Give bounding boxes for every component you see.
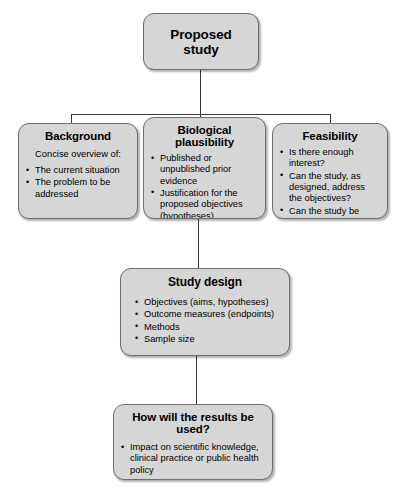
connector-branch-bus bbox=[71, 114, 331, 115]
node-feasibility-title: Feasibility bbox=[280, 130, 380, 142]
flow-chart-diagram: Proposed study Background Concise overvi… bbox=[0, 0, 395, 494]
node-results-used-list: Impact on scientific knowledge, clinical… bbox=[121, 442, 267, 480]
node-proposed-study-title: Proposed study bbox=[151, 27, 251, 57]
node-feasibility: Feasibility Is there enough interest? Ca… bbox=[272, 123, 388, 219]
node-background-list: The current situation The problem to be … bbox=[26, 165, 134, 200]
list-item: Can the study be completed on time? bbox=[280, 206, 380, 219]
node-background-lead: Concise overview of: bbox=[26, 149, 130, 159]
list-item: Objectives (aims, hypotheses) bbox=[135, 297, 275, 308]
list-item: What is expected to happen next? bbox=[121, 479, 267, 480]
list-item: Impact on scientific knowledge, clinical… bbox=[121, 442, 267, 476]
node-study-design-title: Study design bbox=[128, 275, 282, 289]
list-item: Can the study, as designed, address the … bbox=[280, 171, 380, 205]
list-item: The current situation bbox=[26, 165, 134, 176]
list-item: Published or unpublished prior evidence bbox=[151, 153, 258, 187]
node-biological-plausibility-list: Published or unpublished prior evidence … bbox=[151, 153, 258, 219]
node-proposed-study: Proposed study bbox=[143, 13, 259, 70]
node-results-used: How will the results be used? Impact on … bbox=[113, 404, 273, 480]
node-feasibility-list: Is there enough interest? Can the study,… bbox=[280, 147, 380, 219]
node-background-title: Background bbox=[26, 130, 130, 142]
list-item: Justification for the proposed objective… bbox=[151, 188, 258, 219]
list-item: The problem to be addressed bbox=[26, 177, 134, 200]
list-item: Methods bbox=[135, 322, 275, 333]
node-results-used-title: How will the results be used? bbox=[121, 411, 265, 435]
connector-study-design-to-results bbox=[196, 356, 197, 405]
connector-proposed-to-bus bbox=[200, 70, 201, 114]
connector-biological-to-study-design bbox=[198, 219, 199, 269]
node-background: Background Concise overview of: The curr… bbox=[18, 123, 138, 219]
node-biological-plausibility-title: Biological plausibility bbox=[151, 124, 258, 148]
node-study-design: Study design Objectives (aims, hypothese… bbox=[120, 268, 290, 356]
node-biological-plausibility: Biological plausibility Published or unp… bbox=[143, 117, 266, 219]
list-item: Sample size bbox=[135, 334, 275, 345]
node-study-design-list: Objectives (aims, hypotheses) Outcome me… bbox=[135, 297, 275, 345]
list-item: Is there enough interest? bbox=[280, 147, 380, 170]
list-item: Outcome measures (endpoints) bbox=[135, 309, 275, 320]
